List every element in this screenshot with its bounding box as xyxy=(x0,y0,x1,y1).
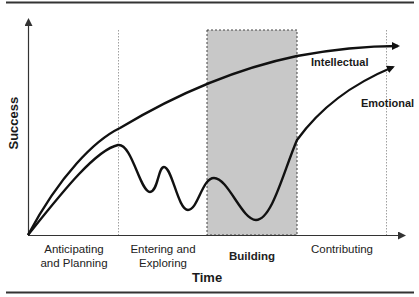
phase-label-entering: Entering and Exploring xyxy=(119,242,207,270)
phase-label-line: Exploring xyxy=(119,256,207,270)
intellectual-curve-label: Intellectual xyxy=(311,56,368,68)
phase-label-line: Anticipating xyxy=(30,242,118,256)
emotional-curve-label: Emotional xyxy=(361,97,414,109)
x-axis-label: Time xyxy=(192,270,222,285)
phase-label-contributing: Contributing xyxy=(298,242,386,256)
phase-label-line: Entering and xyxy=(119,242,207,256)
phase-label-line: and Planning xyxy=(30,256,118,270)
phase-label-anticipating: Anticipating and Planning xyxy=(30,242,118,270)
phase-label-line: Contributing xyxy=(298,242,386,256)
phase-label-building: Building xyxy=(207,249,297,263)
y-axis-label: Success xyxy=(6,100,21,150)
phase-label-line: Building xyxy=(207,249,297,263)
building-phase-highlight xyxy=(207,30,297,235)
